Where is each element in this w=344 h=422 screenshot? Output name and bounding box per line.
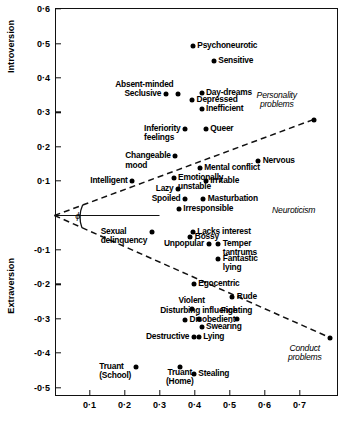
data-point <box>149 230 154 235</box>
phi-angle-label: ϕ <box>75 210 80 221</box>
x-tick-label: 0·6 <box>258 400 271 410</box>
y-tick-label: 0·6 <box>37 4 50 14</box>
data-point-label: Inefficient <box>206 104 243 113</box>
data-point-label: Intelligent <box>90 176 127 185</box>
data-point <box>201 197 206 202</box>
x-tick-label: 0·7 <box>293 400 306 410</box>
data-point-label: Nervous <box>263 157 295 166</box>
annotation-personality: Personality problems <box>257 91 297 109</box>
x-tick <box>194 390 195 396</box>
data-point <box>211 59 216 64</box>
annotation-neuroticism: Neuroticism <box>272 207 315 216</box>
data-point-label: Fantastic lying <box>223 253 258 271</box>
data-point <box>183 197 188 202</box>
data-point <box>230 295 235 300</box>
data-point <box>176 187 181 192</box>
data-point <box>216 256 221 261</box>
data-point-label: Lazy <box>156 184 174 193</box>
y-tick <box>55 146 61 147</box>
data-point-label: Egocentric <box>198 280 239 289</box>
data-point <box>191 372 196 377</box>
x-tick <box>264 390 265 396</box>
y-tick <box>55 77 61 78</box>
data-point <box>199 325 204 330</box>
data-point-label: Sensitive <box>218 57 253 66</box>
data-point <box>203 126 208 131</box>
x-tick-label: 0·1 <box>83 400 96 410</box>
y-tick-label: -0·5 <box>34 383 50 393</box>
x-tick-label: 0·2 <box>118 400 131 410</box>
data-point-label: Irritable <box>210 176 239 185</box>
annotation-conduct: Conduct problems <box>288 344 322 362</box>
x-tick-label: 0·5 <box>223 400 236 410</box>
data-point-label: Fighting <box>221 306 252 315</box>
data-point <box>327 335 332 340</box>
data-point <box>133 364 138 369</box>
y-axis-title-extraversion: Extraversion <box>6 258 16 314</box>
data-point-label: Stealing <box>198 370 229 379</box>
data-point <box>197 166 202 171</box>
y-tick <box>55 284 61 285</box>
y-tick-label: 0·3 <box>37 107 50 117</box>
y-tick <box>55 180 61 181</box>
data-point <box>206 241 211 246</box>
data-point-label: Inferiority feelings <box>144 124 180 142</box>
y-tick-label: -0·1 <box>34 245 50 255</box>
data-point <box>183 126 188 131</box>
x-tick-label: 0·4 <box>188 400 201 410</box>
data-point-label: Masturbation <box>208 195 258 204</box>
y-tick <box>55 8 61 9</box>
y-tick-label: 0·1 <box>37 176 50 186</box>
y-tick-label: 0·2 <box>37 142 50 152</box>
data-point <box>190 97 195 102</box>
data-point <box>199 106 204 111</box>
data-point <box>191 282 196 287</box>
data-point <box>203 179 208 184</box>
x-tick <box>159 390 160 396</box>
y-tick-label: 0·4 <box>37 73 50 83</box>
y-axis-title-introversion: Introversion <box>6 20 16 73</box>
y-tick-label: -0·2 <box>34 279 50 289</box>
y-tick-label: -0·4 <box>34 348 50 358</box>
x-tick <box>299 390 300 396</box>
data-point-label: Queer <box>210 124 233 133</box>
data-point-label: Sexual delinquency <box>101 227 148 245</box>
data-point-label: Irresponsible <box>183 205 233 214</box>
data-point <box>173 154 178 159</box>
data-point-label: Lying <box>203 332 224 341</box>
data-point-label: Truant (School) <box>99 362 131 380</box>
data-point-label: Truant (Home) <box>166 368 194 386</box>
scatter-chart: 0·10·20·30·40·50·60·7 0·60·50·40·30·20·1… <box>0 0 344 422</box>
y-tick <box>55 352 61 353</box>
data-point <box>234 316 239 321</box>
y-tick <box>55 387 61 388</box>
x-tick <box>229 390 230 396</box>
data-point-label: Destructive <box>146 332 189 341</box>
data-point <box>163 92 168 97</box>
x-tick <box>89 390 90 396</box>
data-point <box>216 241 221 246</box>
data-point-label: Rude <box>237 292 257 301</box>
data-point <box>196 334 201 339</box>
data-point <box>183 317 188 322</box>
data-point-label: Unpopular <box>164 239 204 248</box>
data-point <box>190 44 195 49</box>
y-tick-label: 0·5 <box>37 39 50 49</box>
y-tick <box>55 318 61 319</box>
data-point-label: Seclusive <box>124 90 161 99</box>
y-tick <box>55 249 61 250</box>
y-tick <box>55 43 61 44</box>
y-tick-label: -0·3 <box>34 314 50 324</box>
data-point-label: Changeable mood <box>125 151 170 169</box>
x-tick-label: 0·3 <box>153 400 166 410</box>
data-point <box>311 117 316 122</box>
y-tick <box>55 112 61 113</box>
data-point <box>176 207 181 212</box>
data-point-label: Spoiled <box>152 195 181 204</box>
data-point <box>130 179 135 184</box>
data-point-label: Psychoneurotic <box>197 42 257 51</box>
data-point <box>171 175 176 180</box>
data-point <box>176 92 181 97</box>
x-tick <box>124 390 125 396</box>
